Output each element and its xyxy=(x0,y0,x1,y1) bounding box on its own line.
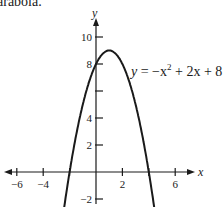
y-tick-label: 4 xyxy=(87,112,93,124)
y-tick-label: −2 xyxy=(80,193,92,205)
parabola-chart: −6−426−224810 y x y = −x2 + 2x + 8 xyxy=(0,0,223,207)
y-axis-label: y xyxy=(91,6,98,20)
y-tick-label: 8 xyxy=(87,58,93,70)
y-tick-label: 10 xyxy=(81,31,93,43)
x-tick-label: 6 xyxy=(172,178,178,190)
x-axis-label: x xyxy=(197,165,204,179)
x-tick-label: 2 xyxy=(120,178,126,190)
y-tick-label: 2 xyxy=(87,139,93,151)
x-tick-label: −6 xyxy=(11,178,23,190)
axes xyxy=(8,22,191,204)
x-tick-label: −4 xyxy=(37,178,49,190)
ticks: −6−426−224810 xyxy=(11,31,179,205)
equation-label: y = −x2 + 2x + 8 xyxy=(129,62,222,79)
